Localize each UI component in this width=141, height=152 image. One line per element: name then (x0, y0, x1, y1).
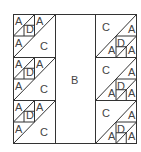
right-1-d: D (117, 38, 125, 49)
left-1-c: C (40, 41, 48, 52)
right-2-d: D (117, 81, 125, 92)
right-2-a-bottom-left: A (108, 88, 115, 99)
left-1-a-lower: A (15, 38, 22, 49)
left-3-a-lower: A (15, 124, 22, 135)
left-3-a-top-right: A (36, 102, 43, 113)
right-2-a-upper: A (128, 67, 135, 78)
right-3-a-upper: A (128, 110, 135, 121)
right-1-c: C (102, 22, 110, 33)
center-label-b: B (71, 75, 78, 86)
right-2-c: C (102, 65, 110, 76)
right-3-a-bottom-left: A (108, 131, 115, 142)
right-1-a-bottom-left: A (108, 45, 115, 56)
left-2-d: D (26, 67, 34, 78)
left-2-c: C (40, 84, 48, 95)
left-3-a-top-left: A (15, 102, 22, 113)
right-3-a-bottom-right: A (128, 131, 135, 142)
left-3-d: D (26, 110, 34, 121)
right-1-a-upper: A (128, 24, 135, 35)
left-2-a-top-right: A (36, 59, 43, 70)
right-3-d: D (117, 124, 125, 135)
right-2-a-bottom-right: A (128, 88, 135, 99)
left-3-c: C (40, 127, 48, 138)
left-2-a-lower: A (15, 81, 22, 92)
right-3-c: C (102, 108, 110, 119)
left-2-a-top-left: A (15, 59, 22, 70)
left-1-a-top-right: A (36, 16, 43, 27)
left-1-a-top-left: A (15, 16, 22, 27)
right-1-a-bottom-right: A (128, 45, 135, 56)
left-1-d: D (26, 24, 34, 35)
